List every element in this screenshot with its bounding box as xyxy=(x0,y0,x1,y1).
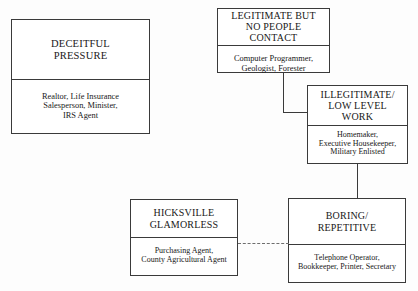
node-deceitful-pressure-title: DECEITFUL PRESSURE xyxy=(12,20,149,79)
node-illegitimate-low-level-work-examples: Homemaker, Executive Housekeeper, Milita… xyxy=(308,125,407,163)
node-hicksville-glamorless-examples: Purchasing Agent, County Agricultural Ag… xyxy=(131,237,237,275)
node-hicksville-glamorless-title: HICKSVILLE GLAMORLESS xyxy=(131,200,237,237)
node-boring-repetitive-title: BORING/ REPETITIVE xyxy=(289,199,405,244)
node-legitimate-no-people-contact-title: LEGITIMATE BUT NO PEOPLE CONTACT xyxy=(218,9,329,45)
connector-legitimate-to-illegitimate-vertical xyxy=(283,72,284,113)
node-illegitimate-low-level-work-title: ILLEGITIMATE/ LOW LEVEL WORK xyxy=(308,86,407,125)
connector-legitimate-to-illegitimate-horizontal xyxy=(283,112,308,113)
node-deceitful-pressure[interactable]: DECEITFUL PRESSURE Realtor, Life Insuran… xyxy=(11,19,150,134)
node-boring-repetitive-examples: Telephone Operator, Bookkeeper, Printer,… xyxy=(289,244,405,282)
node-illegitimate-low-level-work[interactable]: ILLEGITIMATE/ LOW LEVEL WORK Homemaker, … xyxy=(307,85,408,164)
node-deceitful-pressure-examples: Realtor, Life Insurance Salesperson, Min… xyxy=(12,79,149,133)
node-boring-repetitive[interactable]: BORING/ REPETITIVE Telephone Operator, B… xyxy=(288,198,406,283)
node-legitimate-no-people-contact[interactable]: LEGITIMATE BUT NO PEOPLE CONTACT Compute… xyxy=(217,8,330,73)
connector-hicksville-to-boring-dashed xyxy=(238,243,289,244)
node-hicksville-glamorless[interactable]: HICKSVILLE GLAMORLESS Purchasing Agent, … xyxy=(130,199,238,276)
diagram-canvas: DECEITFUL PRESSURE Realtor, Life Insuran… xyxy=(0,0,418,291)
node-legitimate-no-people-contact-examples: Computer Programmer, Geologist, Forester xyxy=(218,45,329,83)
connector-illegitimate-to-boring xyxy=(357,163,358,199)
